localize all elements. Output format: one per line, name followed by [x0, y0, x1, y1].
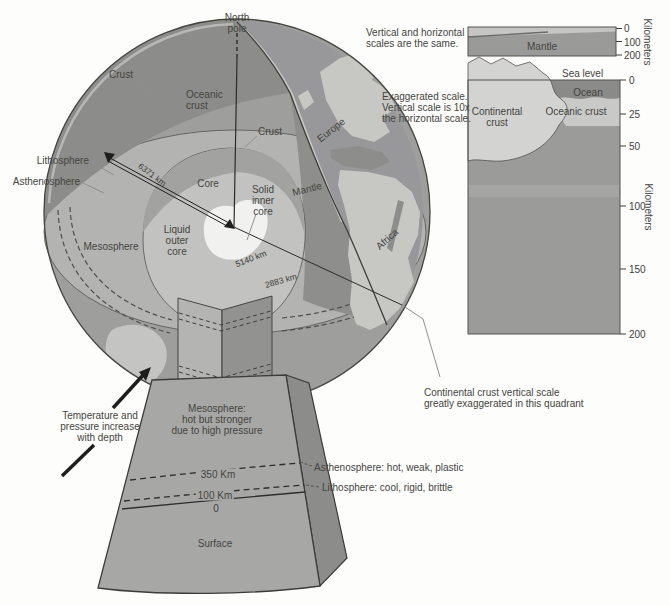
panel-ocean-label: Ocean [573, 87, 602, 98]
bar-tick-100: 100 [624, 37, 641, 48]
lithosphere-label: Lithosphere [37, 155, 89, 166]
panel-ticks [620, 80, 626, 334]
asthenosphere-label: Asthenosphere [13, 176, 80, 187]
solid-inner-core-label: Solid inner core [252, 184, 274, 217]
diagram-artwork [0, 0, 670, 605]
panel-tick-0: 0 [629, 75, 635, 86]
bar-tick-200: 200 [624, 50, 641, 61]
panel-tick-25: 25 [629, 109, 640, 120]
bar-mantle-label: Mantle [527, 41, 557, 52]
lithosphere-note: Lithosphere: cool, rigid, brittle [322, 482, 453, 493]
depth-0-label: 0 [213, 503, 219, 514]
asthenosphere-note: Asthenosphere: hot, weak, plastic [314, 462, 464, 473]
wedge-mesosphere-label: Mesosphere: hot but stronger due to high… [171, 403, 262, 436]
core-label: Core [197, 178, 219, 189]
oceanic-crust-label: Oceanic crust [186, 89, 223, 111]
panel-tick-50: 50 [629, 141, 640, 152]
panel-light-band [469, 185, 619, 197]
continental-quadrant-note: Continental crust vertical scale greatly… [424, 387, 584, 409]
panel-tick-200: 200 [629, 329, 646, 340]
depth-100-label: 100 Km [196, 490, 234, 501]
depth-350-label: 350 Km [199, 469, 237, 480]
temperature-note: Temperature and pressure increase with d… [60, 410, 139, 443]
bar-ticks [616, 29, 622, 56]
crust-label: Crust [109, 69, 133, 80]
sea-level-label: Sea level [562, 68, 603, 79]
panel-oceanic-crust-label: Oceanic crust [545, 106, 606, 117]
earth-interior-diagram: North pole Crust Oceanic crust Crust Lit… [0, 0, 670, 605]
mesosphere-label: Mesosphere [83, 241, 138, 252]
bar-axis-label: Kilometers [642, 18, 653, 65]
crust-surface-label: Crust [258, 126, 282, 137]
exaggerated-section [468, 57, 626, 334]
panel-axis-label: Kilometers [643, 183, 654, 230]
bar-tick-0: 0 [624, 23, 630, 34]
surface-label: Surface [198, 538, 232, 549]
north-pole-label: North pole [225, 12, 249, 34]
exaggerated-note: Exaggerated scale. Vertical scale is 10x… [382, 91, 471, 124]
panel-continental-crust-label: Continental crust [472, 106, 523, 128]
liquid-outer-core-label: Liquid outer core [164, 224, 191, 257]
panel-tick-150: 150 [629, 264, 646, 275]
true-scale-note: Vertical and horizontal scales are the s… [366, 27, 464, 49]
